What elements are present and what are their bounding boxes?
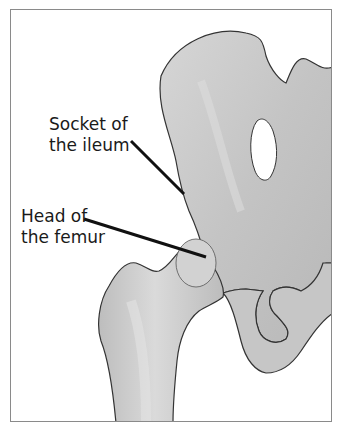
- label-head-of-femur: Head of the femur: [21, 206, 105, 248]
- label-socket-of-ileum: Socket of the ileum: [49, 114, 130, 156]
- femoral-head: [176, 239, 216, 287]
- illustration-frame: Socket of the ileum Head of the femur: [10, 9, 332, 422]
